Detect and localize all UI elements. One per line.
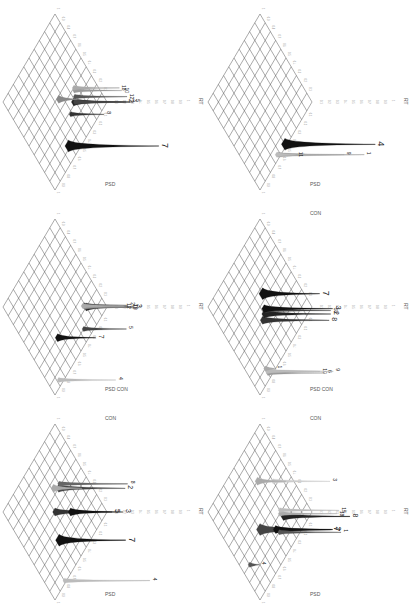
svg-text:0.7: 0.7 <box>72 34 76 38</box>
svg-text:0.5: 0.5 <box>82 52 86 56</box>
svg-text:0.4: 0.4 <box>292 549 296 553</box>
svg-text:0.6: 0.6 <box>282 567 286 571</box>
svg-text:0.7: 0.7 <box>277 239 281 243</box>
surface-plot: 0.10.10.20.20.30.30.40.40.50.50.60.60.70… <box>205 0 410 205</box>
figure: 0.10.10.20.20.30.30.40.40.50.50.60.60.70… <box>0 0 410 614</box>
axis-label-rt: RT <box>198 508 204 515</box>
peak-label: 8 <box>130 481 136 484</box>
peak-label: 4 <box>376 141 386 146</box>
svg-text:0.9: 0.9 <box>61 427 65 431</box>
peak <box>248 562 259 567</box>
floor-grid <box>208 14 312 190</box>
axis-label-con: CON <box>310 415 322 421</box>
surface-plot: 0.10.10.20.20.30.30.40.40.50.50.60.60.70… <box>0 205 205 410</box>
axis-label-psd: PSD CON <box>105 386 128 392</box>
peak-label: 9 <box>346 152 352 155</box>
peaks: 41911 <box>275 138 386 157</box>
peak <box>57 378 116 383</box>
svg-text:0.6: 0.6 <box>154 510 158 514</box>
svg-text:1: 1 <box>56 397 60 399</box>
rt-axis: 0.10.20.30.40.50.60.70.80.91RT <box>114 98 204 105</box>
svg-text:0.5: 0.5 <box>351 100 355 104</box>
svg-text:0.8: 0.8 <box>66 436 70 440</box>
svg-text:0.2: 0.2 <box>98 532 102 536</box>
svg-text:0.5: 0.5 <box>146 305 150 309</box>
peak-label: 12 <box>126 303 132 309</box>
svg-text:1: 1 <box>56 602 60 604</box>
svg-text:1: 1 <box>56 213 60 215</box>
svg-text:0.6: 0.6 <box>77 362 81 366</box>
svg-text:1: 1 <box>261 8 265 10</box>
svg-text:0.3: 0.3 <box>297 130 301 134</box>
axis-label-con: CON <box>105 415 117 421</box>
svg-text:0.5: 0.5 <box>82 558 86 562</box>
svg-text:0.3: 0.3 <box>297 275 301 279</box>
peak <box>82 327 126 332</box>
svg-text:0.6: 0.6 <box>154 305 158 309</box>
peak-label: 11 <box>298 152 304 157</box>
axis-ticks: 0.10.10.20.20.30.30.40.40.50.50.60.60.70… <box>261 8 312 194</box>
svg-text:0.6: 0.6 <box>359 305 363 309</box>
svg-text:0.1: 0.1 <box>319 100 323 104</box>
svg-text:0.9: 0.9 <box>61 17 65 21</box>
svg-text:0.8: 0.8 <box>375 100 379 104</box>
svg-text:0.9: 0.9 <box>266 388 270 392</box>
axis-label-rt: RT <box>198 303 204 310</box>
svg-text:0.8: 0.8 <box>271 231 275 235</box>
plot-panel-top-left: 0.10.10.20.20.30.30.40.40.50.50.60.60.70… <box>0 0 205 205</box>
svg-text:0.9: 0.9 <box>383 100 387 104</box>
svg-text:1: 1 <box>186 100 190 102</box>
svg-text:0.8: 0.8 <box>375 510 379 514</box>
svg-text:0.1: 0.1 <box>103 292 107 296</box>
svg-text:0.4: 0.4 <box>87 61 91 65</box>
svg-text:0.8: 0.8 <box>66 231 70 235</box>
svg-text:0.3: 0.3 <box>297 335 301 339</box>
svg-text:0.2: 0.2 <box>303 122 307 126</box>
peak-label: 1 <box>366 152 372 155</box>
axis-label-rt: RT <box>403 303 409 310</box>
surface-plot: 0.10.10.20.20.30.30.40.40.50.50.60.60.70… <box>205 410 410 614</box>
svg-text:0.2: 0.2 <box>98 283 102 287</box>
svg-text:1: 1 <box>186 510 190 512</box>
floor-grid <box>208 219 312 395</box>
peak-label: 3 <box>132 99 138 102</box>
svg-text:1: 1 <box>261 397 265 399</box>
svg-text:0.7: 0.7 <box>162 305 166 309</box>
svg-text:1: 1 <box>391 100 395 102</box>
svg-text:0.4: 0.4 <box>87 266 91 270</box>
svg-text:0.2: 0.2 <box>98 78 102 82</box>
peak-label: 3 <box>125 509 132 513</box>
svg-text:0.8: 0.8 <box>170 510 174 514</box>
peak-label: 8 <box>352 513 359 517</box>
svg-text:0.7: 0.7 <box>277 34 281 38</box>
svg-text:0.4: 0.4 <box>87 344 91 348</box>
surface-plot: 0.10.10.20.20.30.30.40.40.50.50.60.60.70… <box>205 205 410 410</box>
svg-text:0.1: 0.1 <box>308 113 312 117</box>
peak-label: 5 <box>128 326 134 329</box>
svg-text:0.9: 0.9 <box>383 305 387 309</box>
svg-text:0.5: 0.5 <box>82 257 86 261</box>
svg-text:0.1: 0.1 <box>103 523 107 527</box>
svg-text:0.9: 0.9 <box>61 183 65 187</box>
peak-label: 8 <box>106 111 112 114</box>
svg-text:0.9: 0.9 <box>266 183 270 187</box>
svg-text:0.1: 0.1 <box>103 497 107 501</box>
axis-label-rt: RT <box>198 98 204 105</box>
svg-text:0.6: 0.6 <box>282 248 286 252</box>
peaks: 47531018212 <box>55 302 143 382</box>
svg-text:0.6: 0.6 <box>154 100 158 104</box>
svg-text:0.7: 0.7 <box>277 444 281 448</box>
peak-label: 1 <box>343 529 349 532</box>
peak-label: 4 <box>118 377 124 380</box>
svg-text:0.6: 0.6 <box>77 43 81 47</box>
svg-text:0.3: 0.3 <box>297 540 301 544</box>
svg-text:0.9: 0.9 <box>383 510 387 514</box>
peak-label: 18 <box>121 85 127 91</box>
svg-text:0.5: 0.5 <box>146 100 150 104</box>
svg-text:0.4: 0.4 <box>87 549 91 553</box>
peak-label: 8 <box>331 317 338 321</box>
svg-text:1: 1 <box>261 213 265 215</box>
svg-text:0.4: 0.4 <box>292 344 296 348</box>
svg-text:0.9: 0.9 <box>178 510 182 514</box>
svg-text:0.5: 0.5 <box>287 257 291 261</box>
